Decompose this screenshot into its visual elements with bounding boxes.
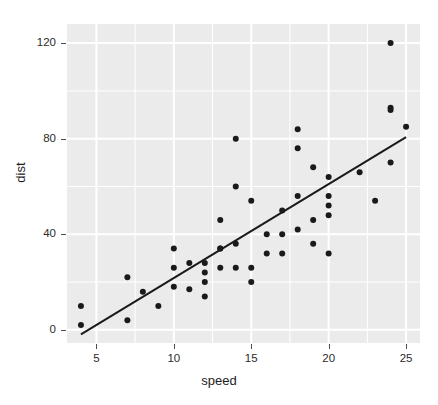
x-tick-label: 25	[400, 353, 413, 365]
x-tick-label: 20	[322, 353, 335, 365]
y-tick-label: 0	[14, 324, 56, 336]
x-tick-label: 15	[245, 353, 258, 365]
data-points	[67, 24, 420, 343]
x-tick-mark	[329, 344, 330, 349]
scatter-plot-figure: dist 04080120 510152025 speed	[0, 0, 438, 405]
x-tick-label: 10	[167, 353, 180, 365]
x-tick-mark	[406, 344, 407, 349]
y-tick-mark	[61, 43, 66, 44]
x-tick-mark	[96, 344, 97, 349]
x-tick-label: 5	[93, 353, 99, 365]
y-axis-title: dist	[13, 153, 28, 193]
y-tick-label: 40	[14, 229, 56, 241]
y-tick-label: 80	[14, 133, 56, 145]
y-tick-label: 120	[14, 37, 56, 49]
y-tick-mark	[61, 234, 66, 235]
x-axis-title: speed	[0, 373, 438, 388]
plot-panel	[67, 24, 420, 343]
y-tick-mark	[61, 139, 66, 140]
x-tick-mark	[251, 344, 252, 349]
y-tick-mark	[61, 330, 66, 331]
x-tick-mark	[174, 344, 175, 349]
